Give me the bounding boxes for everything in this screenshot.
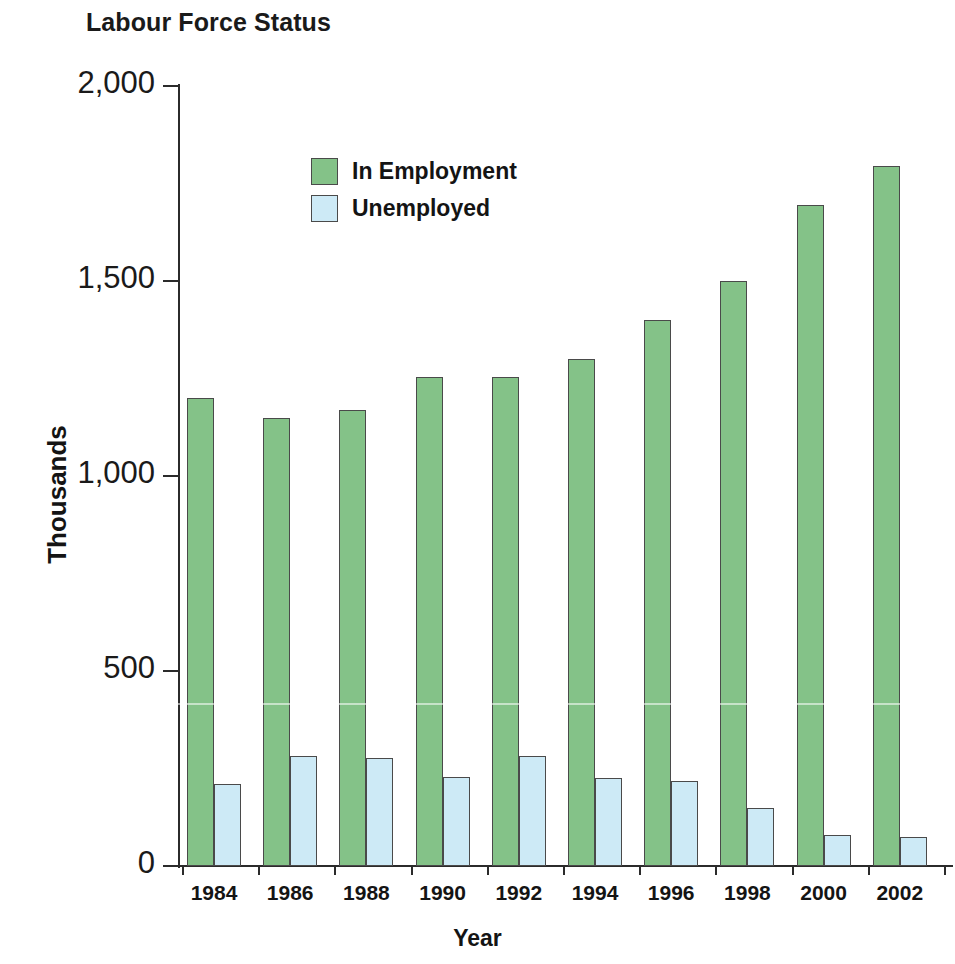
y-axis-tick bbox=[163, 865, 179, 867]
y-axis-tick bbox=[163, 475, 179, 477]
bar-unemployed-1984 bbox=[214, 784, 241, 866]
bar-in-employment-2000 bbox=[797, 205, 824, 866]
bar-unemployed-2000 bbox=[824, 835, 851, 866]
bar-in-employment-1990 bbox=[416, 377, 443, 866]
x-axis-tick bbox=[563, 866, 565, 875]
x-axis-tick bbox=[639, 866, 641, 875]
x-axis-tick bbox=[944, 866, 946, 875]
y-axis-tick bbox=[163, 85, 179, 87]
x-axis-tick bbox=[792, 866, 794, 875]
chart-legend: In EmploymentUnemployed bbox=[311, 158, 517, 232]
x-axis-tick-label: 1992 bbox=[479, 881, 559, 905]
x-axis-tick-label: 2000 bbox=[784, 881, 864, 905]
bar-unemployed-1996 bbox=[671, 781, 698, 866]
x-axis-tick-label: 1984 bbox=[174, 881, 254, 905]
bar-unemployed-1988 bbox=[366, 758, 393, 866]
x-axis-tick bbox=[715, 866, 717, 875]
legend-label: In Employment bbox=[352, 158, 517, 185]
legend-item-employed: In Employment bbox=[311, 158, 517, 185]
chart-title: Labour Force Status bbox=[86, 8, 331, 37]
legend-item-unemployed: Unemployed bbox=[311, 195, 517, 222]
bar-unemployed-2002 bbox=[900, 837, 927, 866]
x-axis-tick-label: 1988 bbox=[326, 881, 406, 905]
bar-unemployed-1992 bbox=[519, 756, 546, 866]
legend-swatch-employed-icon bbox=[311, 158, 338, 185]
y-axis-tick-label: 0 bbox=[10, 847, 155, 878]
x-axis-tick bbox=[334, 866, 336, 875]
bar-unemployed-1998 bbox=[747, 808, 774, 867]
legend-label: Unemployed bbox=[352, 195, 490, 222]
bar-unemployed-1990 bbox=[443, 777, 470, 866]
y-axis-tick bbox=[163, 280, 179, 282]
x-axis-tick bbox=[182, 866, 184, 875]
x-axis-tick-label: 2002 bbox=[860, 881, 940, 905]
bar-in-employment-1992 bbox=[492, 377, 519, 866]
x-axis-tick bbox=[411, 866, 413, 875]
plot-area bbox=[178, 86, 948, 866]
x-axis-tick bbox=[487, 866, 489, 875]
y-axis-tick-label: 1,500 bbox=[10, 262, 155, 293]
bar-in-employment-1998 bbox=[720, 281, 747, 866]
y-axis-tick-label: 1,000 bbox=[10, 457, 155, 488]
y-axis-tick bbox=[163, 670, 179, 672]
x-axis-tick-label: 1990 bbox=[403, 881, 483, 905]
bar-in-employment-1984 bbox=[187, 398, 214, 866]
bar-in-employment-1996 bbox=[644, 320, 671, 866]
bar-unemployed-1994 bbox=[595, 778, 622, 866]
x-axis-tick-label: 1996 bbox=[631, 881, 711, 905]
y-axis-title: Thousands bbox=[42, 395, 73, 595]
legend-swatch-unemployed-icon bbox=[311, 195, 338, 222]
bar-in-employment-1986 bbox=[263, 418, 290, 867]
bar-in-employment-1994 bbox=[568, 359, 595, 866]
x-axis-tick bbox=[258, 866, 260, 875]
bar-unemployed-1986 bbox=[290, 756, 317, 866]
y-axis-tick-label: 2,000 bbox=[10, 67, 155, 98]
y-axis-tick-label: 500 bbox=[10, 652, 155, 683]
x-axis-tick-label: 1998 bbox=[707, 881, 787, 905]
x-axis-tick-label: 1986 bbox=[250, 881, 330, 905]
x-axis-tick bbox=[868, 866, 870, 875]
bar-in-employment-2002 bbox=[873, 166, 900, 866]
x-axis-title: Year bbox=[0, 925, 955, 952]
x-axis-tick-label: 1994 bbox=[555, 881, 635, 905]
bar-in-employment-1988 bbox=[339, 410, 366, 866]
